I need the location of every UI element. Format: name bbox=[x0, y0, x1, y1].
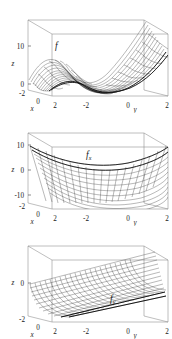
plot-2-svg: 10 0 -10 z -2 0 2 x -2 0 2 y fx bbox=[0, 113, 172, 226]
z-axis-1 bbox=[28, 46, 31, 84]
z-tick-1-0: 0 bbox=[20, 81, 24, 89]
y-tick-3-2: 2 bbox=[165, 328, 169, 336]
x-tick-2-neg2: -2 bbox=[19, 203, 25, 211]
axes-box-2 bbox=[28, 133, 168, 209]
y-tick-1-neg2: -2 bbox=[83, 102, 89, 110]
z-axis-label-3: z bbox=[11, 279, 15, 287]
x-tick-1-neg2: -2 bbox=[19, 90, 25, 98]
plot-1-svg: 10 0 z -2 0 2 x -2 0 2 y f bbox=[0, 0, 172, 113]
z-axis-label-1: z bbox=[11, 60, 15, 68]
y-tick-2-0: 0 bbox=[126, 215, 130, 223]
function-label-1: f bbox=[55, 41, 59, 51]
function-label-3: fy bbox=[110, 294, 116, 305]
y-tick-2-neg2: -2 bbox=[83, 215, 89, 223]
y-axis-label-2: y bbox=[132, 219, 137, 226]
y-tick-1-0: 0 bbox=[126, 102, 130, 110]
plot-3-svg: 0 z -2 0 2 x -2 0 2 y fy bbox=[0, 226, 172, 339]
y-tick-3-neg2: -2 bbox=[83, 328, 89, 336]
surface-plot-fx: 10 0 -10 z -2 0 2 x -2 0 2 y fx bbox=[0, 113, 172, 226]
surface-mesh-3 bbox=[30, 252, 166, 317]
x-tick-3-neg2: -2 bbox=[19, 316, 25, 324]
y-tick-1-2: 2 bbox=[165, 102, 169, 110]
z-tick-2-10: 10 bbox=[17, 142, 25, 150]
surface-plot-fy: 0 z -2 0 2 x -2 0 2 y fy bbox=[0, 226, 172, 339]
x-tick-1-2: 2 bbox=[53, 102, 57, 110]
z-tick-3-0: 0 bbox=[20, 280, 24, 288]
figure-three-surface-plots: 10 0 z -2 0 2 x -2 0 2 y f bbox=[0, 0, 172, 339]
y-axis-label-3: y bbox=[132, 332, 137, 339]
x-axis-label-1: x bbox=[29, 105, 34, 113]
y-tick-2-2: 2 bbox=[165, 215, 169, 223]
z-tick-2-0: 0 bbox=[20, 167, 24, 175]
surface-plot-f: 10 0 z -2 0 2 x -2 0 2 y f bbox=[0, 0, 172, 113]
x-tick-3-2: 2 bbox=[53, 328, 57, 336]
function-label-2: fx bbox=[86, 150, 92, 161]
x-axis-label-2: x bbox=[29, 218, 34, 226]
x-axis-label-3: x bbox=[29, 331, 34, 339]
z-axis-2 bbox=[28, 145, 31, 195]
x-tick-2-0: 0 bbox=[36, 211, 40, 219]
x-tick-1-0: 0 bbox=[36, 98, 40, 106]
y-axis-label-1: y bbox=[132, 106, 137, 113]
y-tick-3-0: 0 bbox=[126, 328, 130, 336]
x-tick-3-0: 0 bbox=[36, 324, 40, 332]
z-tick-2-neg10: -10 bbox=[14, 192, 24, 200]
x-tick-2-2: 2 bbox=[53, 215, 57, 223]
z-tick-1-10: 10 bbox=[17, 43, 25, 51]
z-axis-label-2: z bbox=[11, 166, 15, 174]
